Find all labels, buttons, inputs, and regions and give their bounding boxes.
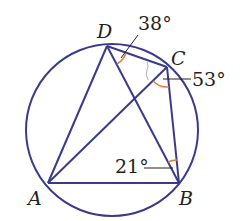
angle-arc-D: [117, 53, 126, 64]
angle-label-21: 21°: [115, 155, 149, 177]
angle-label-53: 53°: [192, 68, 226, 90]
angle-label-38: 38°: [138, 12, 172, 34]
label-C: C: [171, 47, 186, 69]
label-A: A: [26, 187, 42, 209]
squiggle-mark: [146, 62, 148, 80]
angle-arc-B: [168, 160, 177, 162]
label-B: B: [178, 187, 193, 209]
segment-DA: [48, 46, 107, 183]
circumcircle: [26, 44, 198, 216]
cyclic-quadrilateral-diagram: D C A B 38° 53° 21°: [0, 0, 248, 221]
angle-arc-C: [153, 81, 169, 87]
label-D: D: [96, 20, 112, 42]
